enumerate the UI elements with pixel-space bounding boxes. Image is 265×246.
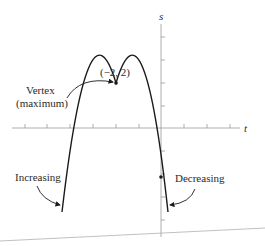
increasing-label: Increasing	[15, 171, 61, 183]
decreasing-arrow	[170, 189, 195, 205]
t-axis	[12, 124, 240, 128]
page-edge-line	[0, 228, 265, 241]
s-intercept-point	[159, 175, 163, 179]
increasing-arrow	[37, 186, 60, 205]
vertex-label: Vertex	[26, 84, 55, 96]
t-axis-label: t	[244, 122, 248, 134]
decreasing-label: Decreasing	[175, 172, 225, 184]
vertex-point	[114, 81, 118, 85]
vertex-arrow	[67, 81, 113, 98]
parabola-curve	[62, 55, 168, 212]
vertex-maximum-label: (maximum)	[16, 97, 68, 110]
s-axis-label: s	[159, 10, 163, 22]
vertex-coords-label: (−2, 2)	[100, 66, 130, 79]
parabola-plot: t s (−2, 2) Vertex (maximum)	[0, 0, 265, 246]
parabola-figure: t s (−2, 2) Vertex (maximum)	[0, 0, 265, 246]
s-axis	[161, 24, 165, 237]
